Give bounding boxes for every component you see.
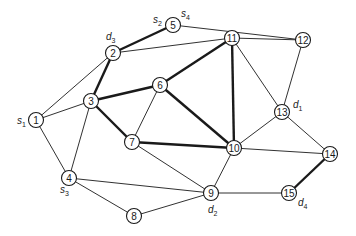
edge-11-13: [232, 38, 282, 112]
node-label: 9: [208, 188, 214, 199]
node-label: 11: [227, 33, 238, 44]
node-label: 6: [157, 80, 163, 91]
node-label: 12: [297, 35, 309, 46]
node-6: 6: [153, 78, 168, 93]
node-label: 13: [276, 107, 288, 118]
node-label: 3: [88, 96, 94, 107]
node-5: 5: [166, 18, 181, 33]
node-label: 10: [228, 143, 240, 154]
node-1: 1: [29, 113, 44, 128]
node-13: 13: [275, 105, 290, 120]
node-label: 8: [131, 211, 137, 222]
edge-3-6: [91, 85, 160, 101]
edge-13-10: [234, 112, 282, 148]
edge-1-3: [36, 101, 91, 120]
node-label: 7: [129, 137, 135, 148]
edge-3-4: [69, 101, 91, 178]
node-label: 1: [33, 115, 39, 126]
node-12: 12: [296, 33, 311, 48]
edge-11-10: [232, 38, 234, 148]
edge-1-4: [36, 120, 69, 178]
node-14: 14: [323, 147, 338, 162]
edge-7-9: [132, 142, 211, 193]
edge-6-11: [160, 38, 232, 85]
annotation-d2: d2: [208, 204, 218, 217]
node-label: 4: [66, 173, 72, 184]
node-15: 15: [282, 186, 297, 201]
node-9: 9: [204, 186, 219, 201]
node-2: 2: [106, 46, 121, 61]
node-label: 14: [324, 149, 336, 160]
edge-7-10: [132, 142, 234, 148]
node-label: 5: [170, 20, 176, 31]
node-10: 10: [227, 141, 242, 156]
node-11: 11: [225, 31, 240, 46]
edge-13-14: [282, 112, 330, 154]
annotation-d1: d1: [293, 99, 303, 112]
annotation-s4: s4: [181, 8, 190, 21]
edge-3-7: [91, 101, 132, 142]
annotation-s3: s3: [60, 184, 69, 197]
node-3: 3: [84, 94, 99, 109]
node-label: 2: [110, 48, 116, 59]
edge-6-7: [132, 85, 160, 142]
annotation-d3: d3: [106, 31, 116, 44]
node-7: 7: [125, 135, 140, 150]
edge-10-14: [234, 148, 330, 154]
edge-8-9: [134, 193, 211, 216]
edge-6-10: [160, 85, 234, 148]
annotation-s2: s2: [153, 14, 162, 27]
annotation-d4: d4: [298, 197, 308, 210]
node-label: 15: [283, 188, 295, 199]
network-diagram: 123456789101112131415 s1s2s4s3d3d1d2d4: [0, 0, 356, 236]
node-8: 8: [127, 209, 142, 224]
annotation-s1: s1: [17, 115, 26, 128]
